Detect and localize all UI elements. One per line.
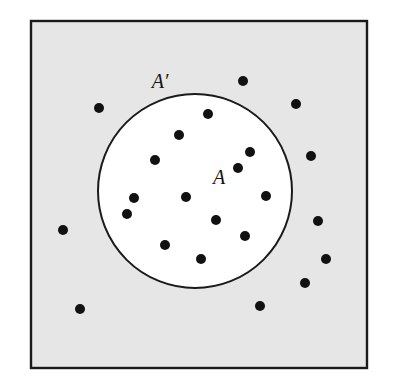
label-a: A [211,166,226,188]
element-point-inside [196,254,206,264]
element-point-inside [174,130,184,140]
element-point-outside [321,254,331,264]
element-point-inside [181,192,191,202]
element-point-outside [313,216,323,226]
element-point-inside [233,163,243,173]
element-point-inside [211,215,221,225]
element-point-inside [160,240,170,250]
element-point-outside [300,278,310,288]
set-diagram-canvas: A′ A [0,0,393,391]
element-point-inside [150,155,160,165]
set-diagram-figure: A′ A [0,0,393,391]
element-point-inside [261,191,271,201]
element-point-inside [122,209,132,219]
element-point-outside [75,304,85,314]
element-point-outside [255,301,265,311]
set-a-circle [98,94,292,288]
element-point-outside [306,151,316,161]
label-a-prime: A′ [150,70,169,92]
element-point-inside [245,147,255,157]
element-point-inside [129,193,139,203]
element-point-outside [58,225,68,235]
element-point-inside [203,109,213,119]
element-point-outside [291,99,301,109]
element-point-inside [240,231,250,241]
element-point-outside [238,76,248,86]
element-point-outside [94,103,104,113]
